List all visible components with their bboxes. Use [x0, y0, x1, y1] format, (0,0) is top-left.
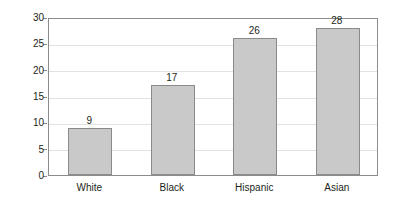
y-tick-label: 5 [4, 144, 44, 155]
bar-value-label: 28 [305, 15, 369, 26]
bar-asian[interactable] [316, 28, 360, 175]
y-tick-label: 0 [4, 170, 44, 181]
y-axis-ticks: 051015202530 [0, 18, 44, 176]
bar-value-label: 26 [222, 25, 286, 36]
bar-black[interactable] [151, 85, 195, 175]
bar-value-label: 9 [57, 115, 121, 126]
bar-value-label: 17 [140, 72, 204, 83]
x-label-asian: Asian [296, 182, 379, 193]
y-tick-label: 30 [4, 12, 44, 23]
y-tick-label: 15 [4, 91, 44, 102]
bar-chart: Percent 051015202530 9172628 WhiteBlackH… [0, 0, 398, 207]
y-tick-label: 25 [4, 38, 44, 49]
y-tick-label: 10 [4, 117, 44, 128]
x-label-black: Black [131, 182, 214, 193]
bar-hispanic[interactable] [233, 38, 277, 175]
plot-area [48, 18, 378, 176]
x-label-hispanic: Hispanic [213, 182, 296, 193]
bar-white[interactable] [68, 128, 112, 175]
y-tick-label: 20 [4, 65, 44, 76]
x-label-white: White [48, 182, 131, 193]
